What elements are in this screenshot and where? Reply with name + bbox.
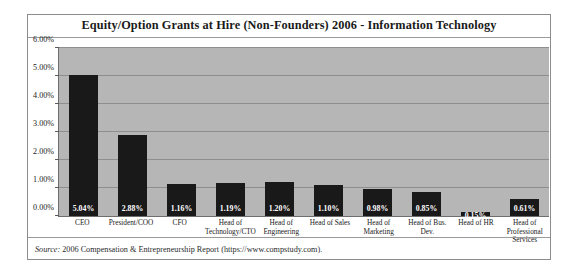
y-axis-tick-label: 5.00% xyxy=(33,63,59,72)
bar-value-label: 1.10% xyxy=(318,204,339,213)
y-axis-tick-label: 3.00% xyxy=(33,119,59,128)
chart-title: Equity/Option Grants at Hire (Non-Founde… xyxy=(28,18,550,33)
x-axis-label: Head of Marketing xyxy=(354,219,403,245)
bar[interactable]: 1.20% xyxy=(265,182,294,216)
y-axis-tick-label: 6.00% xyxy=(33,35,59,44)
x-axis-label: CEO xyxy=(58,219,107,245)
x-axis-label: Head of Professional Services xyxy=(500,219,549,245)
bar-slot: 1.16% xyxy=(157,48,206,216)
source-note: Source: 2006 Compensation & Entrepreneur… xyxy=(35,245,322,254)
y-axis-tick-label: 0.00% xyxy=(33,203,59,212)
bar[interactable]: 0.15% xyxy=(461,212,490,216)
source-label: Source: xyxy=(35,245,60,254)
x-axis-label: CFO xyxy=(155,219,204,245)
bar-slot: 0.85% xyxy=(402,48,451,216)
bar-slot: 1.19% xyxy=(206,48,255,216)
source-text: 2006 Compensation & Entrepreneurship Rep… xyxy=(60,245,322,254)
title-divider xyxy=(28,37,550,38)
y-axis-tick-label: 1.00% xyxy=(33,175,59,184)
plot-area: 0.00%1.00%2.00%3.00%4.00%5.00%6.00% 5.04… xyxy=(58,48,549,217)
bar[interactable]: 5.04% xyxy=(69,75,98,216)
bar-slot: 0.98% xyxy=(353,48,402,216)
bar[interactable]: 1.19% xyxy=(216,183,245,216)
bar-value-label: 1.20% xyxy=(269,204,290,213)
x-axis-label: Head of Sales xyxy=(306,219,355,245)
y-axis-tick-label: 4.00% xyxy=(33,91,59,100)
x-axis-label: Head of Bus. Dev. xyxy=(403,219,452,245)
bar[interactable]: 0.85% xyxy=(412,192,441,216)
bar-value-label: 0.61% xyxy=(514,204,535,213)
x-axis-labels: CEOPresident/COOCFOHead of Technology/CT… xyxy=(58,219,549,245)
bar-slot: 1.20% xyxy=(255,48,304,216)
x-axis-label: Head of Technology/CTO xyxy=(204,219,257,245)
bar-slot: 2.88% xyxy=(108,48,157,216)
bar-series: 5.04%2.88%1.16%1.19%1.20%1.10%0.98%0.85%… xyxy=(59,48,549,216)
x-axis-label: President/COO xyxy=(107,219,156,245)
bar-value-label: 0.85% xyxy=(416,204,437,213)
x-axis-label: Head of HR xyxy=(452,219,501,245)
bar[interactable]: 0.61% xyxy=(510,199,539,216)
bar-slot: 1.10% xyxy=(304,48,353,216)
bar-value-label: 1.19% xyxy=(220,204,241,213)
bar-value-label: 2.88% xyxy=(122,204,143,213)
bar-value-label: 1.16% xyxy=(171,204,192,213)
bar[interactable]: 2.88% xyxy=(118,135,147,216)
bar-slot: 0.61% xyxy=(500,48,549,216)
bar[interactable]: 1.10% xyxy=(314,185,343,216)
footer-divider xyxy=(28,237,550,238)
y-axis-tick-label: 2.00% xyxy=(33,147,59,156)
chart-figure: Equity/Option Grants at Hire (Non-Founde… xyxy=(27,14,551,260)
bar-slot: 5.04% xyxy=(59,48,108,216)
x-axis-label: Head of Engineering xyxy=(257,219,306,245)
bar-value-label: 0.98% xyxy=(367,204,388,213)
bar[interactable]: 0.98% xyxy=(363,189,392,216)
bar-slot: 0.15% xyxy=(451,48,500,216)
bar[interactable]: 1.16% xyxy=(167,184,196,216)
bar-value-label: 5.04% xyxy=(73,204,94,213)
